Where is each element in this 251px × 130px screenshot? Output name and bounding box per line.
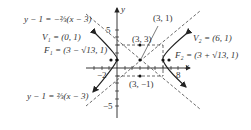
tick-label-neg5: −5	[103, 102, 113, 111]
center-label: (3, 1)	[153, 14, 173, 23]
tick-label-5: 5	[106, 26, 111, 35]
asymptote-upper-label: y − 1 = −⅔(x − 3)	[24, 15, 92, 24]
f2-label: F₂ = (3 + √13, 1)	[175, 51, 238, 60]
y-axis-label: y	[121, 5, 125, 14]
tick-label-8: 8	[176, 71, 181, 80]
f1-label: F₁ = (3 − √13, 1)	[44, 46, 107, 55]
top-point-label: (3, 3)	[132, 35, 152, 44]
v1-label: V₁ = (0, 1)	[42, 33, 81, 42]
v2-label: V₂ = (6, 1)	[193, 34, 232, 43]
bottom-point-label: (3, −1)	[129, 80, 154, 89]
x-axis-label: x	[185, 62, 189, 71]
points	[109, 43, 170, 77]
tick-label-neg2: −2	[97, 71, 107, 80]
asymptotes	[86, 11, 200, 109]
asymptote-lower-label: y − 1 = ⅔(x − 3)	[27, 92, 88, 101]
